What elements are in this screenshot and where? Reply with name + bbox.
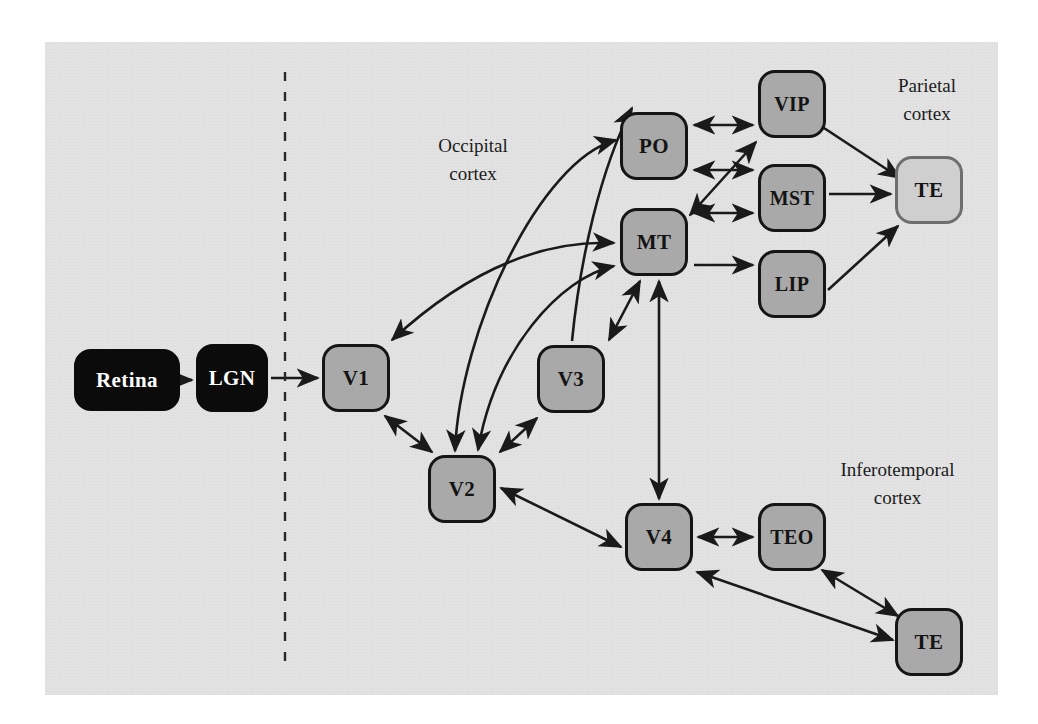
node-te_it[interactable]: TE	[895, 608, 963, 676]
inferotemporal-cortex-label: Inferotemporalcortex	[790, 456, 1005, 511]
edge-v4-te	[697, 572, 893, 640]
edge-v3-mt	[609, 281, 640, 340]
node-te_par[interactable]: TE	[895, 156, 963, 224]
figure-canvas: RetinaLGNV1V2V3POMTVIPMSTLIPTEV4TEOTE Oc…	[0, 0, 1038, 724]
node-mst[interactable]: MST	[758, 164, 826, 232]
node-v3[interactable]: V3	[537, 345, 605, 413]
edge-v2-v3	[500, 418, 537, 452]
node-lip[interactable]: LIP	[758, 250, 826, 318]
node-label-v1: V1	[343, 368, 369, 389]
node-label-te_it: TE	[915, 632, 944, 653]
edge-mt-vip	[690, 142, 756, 215]
node-label-teo: TEO	[770, 527, 813, 547]
parietal-cortex-label-line2: cortex	[852, 100, 1002, 128]
node-po[interactable]: PO	[620, 112, 688, 180]
edge-vip-te	[824, 128, 900, 178]
inferotemporal-cortex-label-line1: Inferotemporal	[790, 456, 1005, 484]
node-label-retina: Retina	[96, 370, 158, 391]
node-v4[interactable]: V4	[625, 503, 693, 571]
node-label-te_par: TE	[915, 180, 944, 201]
edge-v1-mt	[392, 243, 614, 340]
node-mt[interactable]: MT	[620, 208, 688, 276]
node-v2[interactable]: V2	[428, 455, 496, 523]
node-vip[interactable]: VIP	[758, 70, 826, 138]
node-label-mt: MT	[637, 232, 672, 253]
edge-teo-te	[822, 570, 898, 616]
node-label-lip: LIP	[775, 274, 810, 294]
edge-v2-v4	[501, 488, 621, 547]
node-v1[interactable]: V1	[322, 344, 390, 412]
node-label-po: PO	[639, 136, 669, 157]
node-label-mst: MST	[770, 188, 815, 208]
node-label-v3: V3	[558, 369, 584, 390]
parietal-cortex-label: Parietalcortex	[852, 72, 1002, 127]
node-label-vip: VIP	[774, 94, 810, 114]
node-retina[interactable]: Retina	[74, 349, 180, 411]
occipital-cortex-label: Occipitalcortex	[388, 132, 558, 187]
parietal-cortex-label-line1: Parietal	[852, 72, 1002, 100]
node-label-v4: V4	[646, 527, 672, 548]
inferotemporal-cortex-label-line2: cortex	[790, 484, 1005, 512]
node-lgn[interactable]: LGN	[196, 344, 268, 412]
edge-lip-te	[828, 226, 898, 290]
node-label-v2: V2	[449, 479, 475, 500]
node-teo[interactable]: TEO	[758, 503, 826, 571]
occipital-cortex-label-line1: Occipital	[388, 132, 558, 160]
edge-v1-v2	[385, 416, 432, 452]
node-label-lgn: LGN	[209, 368, 256, 389]
occipital-cortex-label-line2: cortex	[388, 160, 558, 188]
